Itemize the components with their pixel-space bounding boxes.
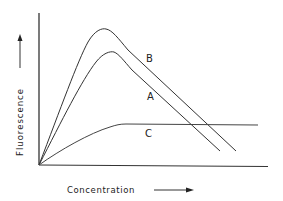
x-axis xyxy=(39,165,268,167)
curve-a-label: A xyxy=(147,91,154,102)
chart-canvas: B A C Fluorescence Concentration xyxy=(0,0,283,201)
x-axis-label: Concentration xyxy=(67,185,135,195)
fluorescence-concentration-chart: B A C Fluorescence Concentration xyxy=(0,0,283,201)
arrow-right-icon xyxy=(186,188,194,193)
curve-b xyxy=(39,29,236,165)
y-axis-label: Fluorescence xyxy=(15,88,25,156)
arrow-up-icon xyxy=(18,34,23,41)
curve-b-label: B xyxy=(146,53,153,64)
curve-c-label: C xyxy=(145,128,152,139)
